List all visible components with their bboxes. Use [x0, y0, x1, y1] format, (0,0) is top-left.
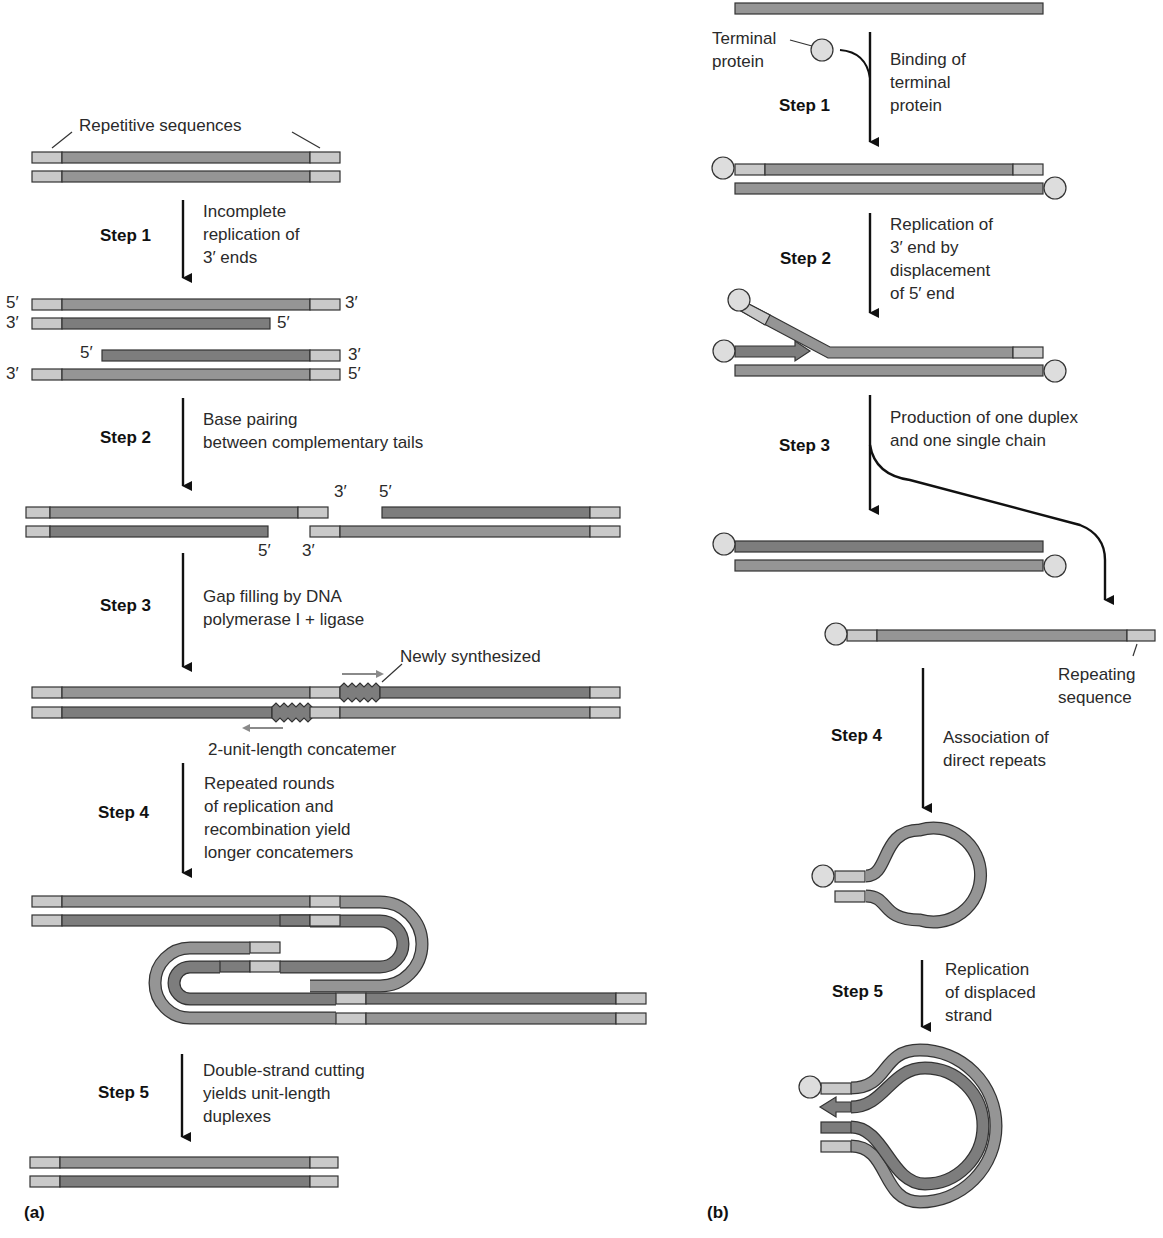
- panel-a-step4-text: Repeated rounds of replication and recom…: [204, 772, 353, 864]
- end-label: 3′: [345, 293, 358, 313]
- panel-a-step5-label: Step 5: [98, 1083, 149, 1103]
- repeating-sequence-label: Repeating sequence: [1058, 663, 1136, 709]
- initial-duplex: [32, 152, 340, 182]
- loop-structure: [812, 828, 981, 922]
- long-concatemer-straight: [32, 896, 646, 1024]
- end-label: 5′: [277, 313, 290, 333]
- panel-a-step5-text: Double-strand cutting yields unit-length…: [203, 1059, 365, 1128]
- end-label: 5′: [6, 293, 19, 313]
- end-label: 3′: [6, 364, 19, 384]
- panel-b-step5-text: Replication of displaced strand: [945, 958, 1036, 1027]
- end-label: 5′: [379, 482, 392, 502]
- panel-a-step2-label: Step 2: [100, 428, 151, 448]
- panel-a-step3-label: Step 3: [100, 596, 151, 616]
- panel-b-step1-text: Binding of terminal protein: [890, 48, 966, 117]
- end-label: 5′: [80, 343, 93, 363]
- two-unit-concatemer: [32, 683, 620, 722]
- unit-length-duplexes: [30, 1157, 338, 1187]
- newly-synthesized-label: Newly synthesized: [400, 645, 541, 668]
- panel-b-step2-label: Step 2: [780, 249, 831, 269]
- linear-dna-top: [735, 3, 1043, 14]
- panel-a-step4-label: Step 4: [98, 803, 149, 823]
- panel-b-arrows: [870, 32, 1105, 1027]
- panel-a-label: (a): [24, 1203, 45, 1223]
- panel-b-step5-label: Step 5: [832, 982, 883, 1002]
- diagram-canvas: [0, 0, 1163, 1238]
- end-label: 3′: [348, 345, 361, 365]
- panel-a-step1-label: Step 1: [100, 226, 151, 246]
- panel-b-step1-label: Step 1: [779, 96, 830, 116]
- end-label: 5′: [258, 541, 271, 561]
- replicated-loop: [799, 1050, 996, 1202]
- concatemer-label: 2-unit-length concatemer: [208, 738, 396, 761]
- panel-b-step4-text: Association of direct repeats: [943, 726, 1049, 772]
- panel-b-label: (b): [707, 1203, 729, 1223]
- panel-a-step1-text: Incomplete replication of 3′ ends: [203, 200, 299, 269]
- repetitive-sequences-label: Repetitive sequences: [79, 114, 242, 137]
- panel-b-step2-text: Replication of 3′ end by displacement of…: [890, 213, 993, 305]
- terminal-protein-label: Terminal protein: [712, 27, 776, 73]
- panel-b-step3-text: Production of one duplex and one single …: [890, 406, 1078, 452]
- end-label: 5′: [348, 364, 361, 384]
- panel-b-step4-label: Step 4: [831, 726, 882, 746]
- end-label: 3′: [6, 313, 19, 333]
- step2-products: [26, 507, 620, 537]
- step1-products: [32, 299, 340, 380]
- end-label: 3′: [334, 482, 347, 502]
- end-label: 3′: [302, 541, 315, 561]
- panel-b-step3-label: Step 3: [779, 436, 830, 456]
- panel-a-step3-text: Gap filling by DNA polymerase I + ligase: [203, 585, 364, 631]
- panel-a-step2-text: Base pairing between complementary tails: [203, 408, 423, 454]
